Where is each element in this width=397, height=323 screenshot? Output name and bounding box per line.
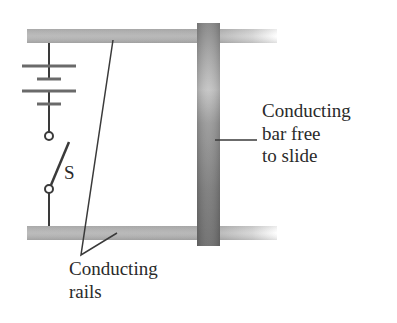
conducting-bar[interactable] [197, 23, 220, 246]
rails-label-line-2: rails [69, 281, 158, 304]
rails-label: Conducting rails [69, 258, 158, 303]
switch-label: S [64, 162, 75, 184]
leader-line [81, 40, 257, 255]
bar-label-line-2: bar free [262, 123, 351, 146]
rails-label-line-1: Conducting [69, 258, 158, 281]
bar-label-line-1: Conducting [262, 100, 351, 123]
top-rail [27, 29, 277, 43]
bottom-rail [27, 226, 277, 240]
bar-label: Conducting bar free to slide [262, 100, 351, 168]
bar-label-line-3: to slide [262, 145, 351, 168]
